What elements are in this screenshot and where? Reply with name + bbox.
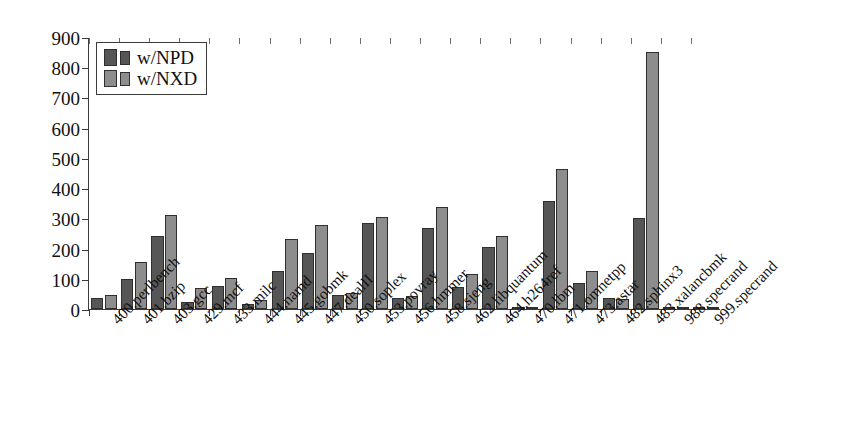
x-tick-label: 482.sphinx3 [621, 316, 632, 327]
x-tick-mark-top [631, 38, 632, 44]
x-tick-mark-top [209, 38, 210, 44]
x-tick-mark-top [239, 38, 240, 44]
y-tick-mark [82, 129, 89, 130]
x-tick-mark-top [691, 38, 692, 44]
chart-legend: w/NPDw/NXD [96, 42, 207, 95]
x-tick-label: 445.gobmk [290, 316, 301, 327]
x-tick-mark-top [601, 38, 602, 44]
x-tick-mark-top [390, 38, 391, 44]
y-tick-mark [82, 159, 89, 160]
x-tick-label: 470.lbm [530, 316, 541, 327]
y-tick-label: 800 [18, 59, 80, 78]
x-tick-label: 433.milc [229, 316, 240, 327]
y-tick-mark [82, 189, 89, 190]
x-tick-mark-top [360, 38, 361, 44]
y-tick-mark [82, 68, 89, 69]
y-tick-mark [82, 219, 89, 220]
x-tick-label: 456.hmmer [410, 316, 421, 327]
x-tick-mark-top [270, 38, 271, 44]
y-tick-label: 400 [18, 180, 80, 199]
x-tick-label: 400.perlbench [109, 316, 120, 327]
legend-item: w/NXD [104, 68, 197, 89]
x-tick-label: 462.libquantum [470, 316, 481, 327]
x-tick-label: 988.specrand [681, 316, 692, 327]
y-tick-label: 0 [18, 301, 80, 320]
x-tick-mark-top [540, 38, 541, 44]
x-tick-label: 401.bzip [139, 316, 150, 327]
x-tick-mark-top [420, 38, 421, 44]
x-tick-mark-top [300, 38, 301, 44]
x-tick-mark-top [450, 38, 451, 44]
y-tick-mark [82, 280, 89, 281]
x-tick-label: 403.gcc [169, 316, 180, 327]
y-tick-mark [82, 38, 89, 39]
legend-swatch-small-icon [120, 72, 130, 86]
y-tick-label: 100 [18, 271, 80, 290]
x-tick-label: 471.omnetpp [560, 316, 571, 327]
legend-swatch-small-icon [120, 51, 130, 65]
x-tick-mark-top [571, 38, 572, 44]
legend-label: w/NXD [137, 69, 197, 88]
bar-chart-figure: 0100200300400500600700800900 w/NPDw/NXD … [0, 0, 865, 430]
y-tick-mark [82, 310, 89, 311]
x-tick-mark-top [510, 38, 511, 44]
y-tick-label: 200 [18, 241, 80, 260]
x-tick-mark-top [480, 38, 481, 44]
x-tick-mark-top [661, 38, 662, 44]
legend-item: w/NPD [104, 47, 197, 68]
y-tick-mark [82, 98, 89, 99]
x-tick-label: 453.povray [380, 316, 391, 327]
legend-swatch-icon [104, 70, 117, 87]
bar [646, 52, 658, 309]
y-tick-label: 600 [18, 120, 80, 139]
bar [91, 298, 103, 309]
x-tick-label: 450.soplex [350, 316, 361, 327]
y-tick-label: 700 [18, 89, 80, 108]
y-axis: 0100200300400500600700800900 [18, 30, 80, 322]
legend-swatch-icon [104, 49, 117, 66]
y-tick-label: 900 [18, 29, 80, 48]
x-tick-label: 464.h264ref [500, 316, 511, 327]
legend-label: w/NPD [137, 48, 194, 67]
y-tick-label: 500 [18, 150, 80, 169]
y-tick-mark [82, 250, 89, 251]
x-tick-label: 429.mcf [199, 316, 210, 327]
x-tick-label: 483.xalancbmk [651, 316, 662, 327]
x-tick-label: 458.sjeng [440, 316, 451, 327]
x-tick-mark-top [330, 38, 331, 44]
x-tick-label: 999.specrand [711, 316, 722, 327]
x-tick-label: 447.dealII [320, 316, 331, 327]
x-tick-label: 444.namd [260, 316, 271, 327]
x-tick-mark [89, 309, 90, 316]
x-tick-label: 473.astar [591, 316, 602, 327]
y-tick-label: 300 [18, 210, 80, 229]
x-tick-mark-top [89, 38, 90, 44]
